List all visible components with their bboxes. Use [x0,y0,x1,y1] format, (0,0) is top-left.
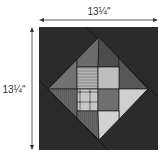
height-dimension: 13¼" [2,27,34,150]
patch-mid-upper-right [98,67,119,89]
patch-mid-lower-right [98,89,119,111]
patch-mid-lower-left-plaid [77,89,98,111]
width-dimension: 13¼" [39,6,158,22]
patch-mid-upper-left [77,67,98,89]
height-label: 13¼" [2,84,25,95]
width-label: 13¼" [87,6,110,17]
quilt-block-diagram: 13¼" 13¼" [0,0,167,156]
